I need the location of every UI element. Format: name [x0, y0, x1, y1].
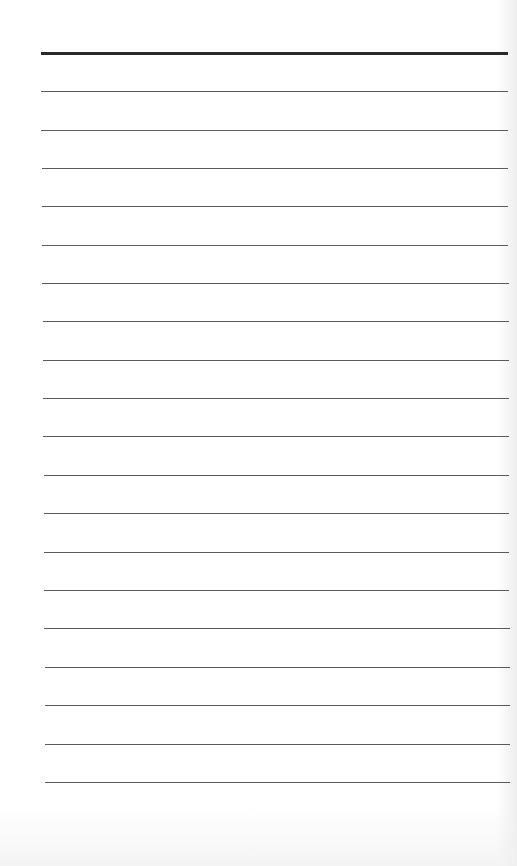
ruled-line: [43, 436, 509, 437]
ruled-line: [45, 782, 510, 783]
ruled-line: [41, 130, 508, 131]
ruled-line: [43, 398, 509, 399]
ruled-line: [41, 91, 508, 92]
ruled-line: [42, 168, 508, 169]
ruled-line: [45, 667, 510, 668]
page-bottom-margin: [0, 806, 517, 866]
ruled-line: [42, 283, 509, 284]
lined-paper-page: [0, 0, 517, 866]
ruled-line: [44, 552, 509, 553]
ruled-line: [45, 705, 510, 706]
header-rule: [41, 52, 508, 55]
ruled-line: [44, 475, 509, 476]
ruled-line: [43, 321, 509, 322]
ruled-line: [44, 628, 510, 629]
ruled-line: [44, 590, 509, 591]
ruled-line: [45, 744, 510, 745]
ruled-line: [43, 360, 509, 361]
ruled-line: [42, 206, 508, 207]
ruled-line: [42, 245, 508, 246]
ruled-line: [44, 513, 509, 514]
